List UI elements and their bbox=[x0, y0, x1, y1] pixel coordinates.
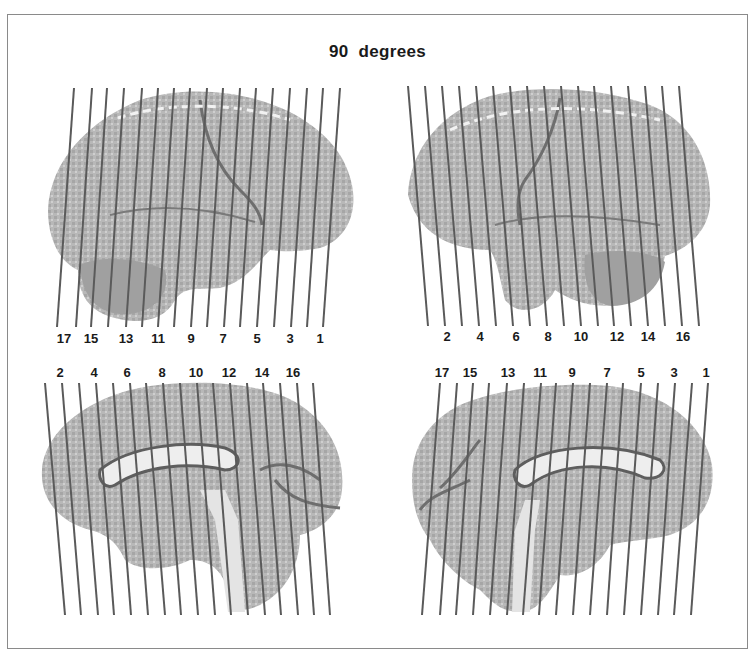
slice-number-label: 10 bbox=[189, 365, 203, 380]
slice-number-label: 6 bbox=[123, 365, 130, 380]
slice-number-label: 9 bbox=[568, 365, 575, 380]
slice-labels: 1715131197531246810121416246810121416171… bbox=[56, 329, 709, 380]
slice-number-label: 4 bbox=[90, 365, 98, 380]
brain-medial-left-image bbox=[42, 383, 343, 612]
slice-number-label: 2 bbox=[56, 365, 63, 380]
slice-number-label: 1 bbox=[702, 365, 709, 380]
slice-number-label: 1 bbox=[316, 331, 323, 346]
slice-number-label: 15 bbox=[463, 365, 477, 380]
slice-number-label: 13 bbox=[501, 365, 515, 380]
slice-labels-bottom-right: 1715131197531 bbox=[435, 365, 710, 380]
brain-silhouette bbox=[42, 383, 343, 610]
slice-number-label: 13 bbox=[119, 331, 133, 346]
slice-number-label: 17 bbox=[57, 331, 71, 346]
slice-number-label: 4 bbox=[476, 329, 484, 344]
slice-number-label: 7 bbox=[219, 331, 226, 346]
slice-number-label: 10 bbox=[574, 329, 588, 344]
slice-number-label: 7 bbox=[603, 365, 610, 380]
slice-labels-top-left: 1715131197531 bbox=[57, 331, 324, 346]
slice-number-label: 8 bbox=[544, 329, 551, 344]
slice-number-label: 5 bbox=[253, 331, 260, 346]
slice-number-label: 11 bbox=[533, 365, 547, 380]
slice-number-label: 2 bbox=[443, 329, 450, 344]
slice-number-label: 5 bbox=[637, 365, 644, 380]
slice-number-label: 8 bbox=[158, 365, 165, 380]
slice-number-label: 16 bbox=[286, 365, 300, 380]
slice-number-label: 14 bbox=[641, 329, 656, 344]
slice-number-label: 6 bbox=[512, 329, 519, 344]
slice-number-label: 12 bbox=[222, 365, 236, 380]
slice-labels-bottom-left: 246810121416 bbox=[56, 365, 300, 380]
slice-number-label: 15 bbox=[84, 331, 98, 346]
slice-number-label: 12 bbox=[610, 329, 624, 344]
slice-number-label: 16 bbox=[676, 329, 690, 344]
brain-slice-figure: 1715131197531246810121416246810121416171… bbox=[0, 0, 755, 660]
slice-labels-top-right: 246810121416 bbox=[443, 329, 690, 344]
slice-number-label: 14 bbox=[255, 365, 270, 380]
slice-number-label: 3 bbox=[286, 331, 293, 346]
slice-number-label: 17 bbox=[435, 365, 449, 380]
slice-number-label: 3 bbox=[670, 365, 677, 380]
slice-number-label: 9 bbox=[187, 331, 194, 346]
slice-number-label: 11 bbox=[151, 331, 165, 346]
